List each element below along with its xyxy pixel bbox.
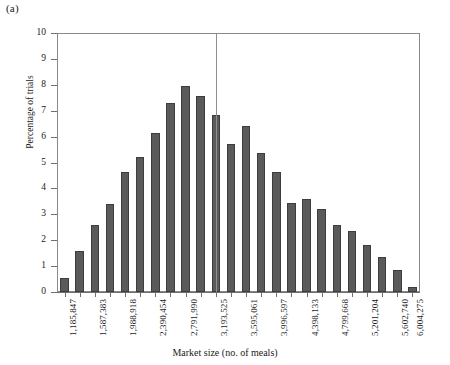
x-axis-tick bbox=[367, 292, 368, 297]
x-axis-tick bbox=[246, 292, 247, 297]
x-axis-tick bbox=[276, 292, 277, 297]
y-axis-tick-label: 8 bbox=[0, 80, 46, 90]
bar bbox=[121, 172, 129, 292]
x-axis-tick-label: 3,595,061 bbox=[250, 299, 259, 336]
x-axis-tick-label: 1,988,918 bbox=[129, 299, 138, 336]
x-axis-tick-label: 6,004,275 bbox=[416, 299, 425, 336]
x-axis-line bbox=[57, 292, 420, 293]
bar bbox=[60, 278, 68, 292]
y-axis-tick-label: 4 bbox=[0, 183, 46, 193]
x-axis-tick bbox=[231, 292, 232, 297]
bar bbox=[317, 209, 325, 292]
x-axis-tick bbox=[170, 292, 171, 297]
y-axis-tick-label: 1 bbox=[0, 261, 46, 271]
x-axis-tick bbox=[322, 292, 323, 297]
x-axis-tick-label: 2,390,454 bbox=[159, 299, 168, 336]
x-axis-title: Market size (no. of meals) bbox=[0, 347, 450, 358]
x-axis-tick bbox=[216, 292, 217, 297]
bar bbox=[75, 251, 83, 292]
bar bbox=[227, 144, 235, 292]
bar bbox=[272, 172, 280, 292]
x-axis-tick bbox=[125, 292, 126, 297]
bar bbox=[393, 270, 401, 292]
bar bbox=[348, 231, 356, 292]
y-axis-tick-label: 9 bbox=[0, 54, 46, 64]
bar bbox=[106, 204, 114, 292]
y-axis-tick-label: 6 bbox=[0, 132, 46, 142]
x-axis-tick bbox=[95, 292, 96, 297]
bar bbox=[302, 199, 310, 292]
x-axis-tick bbox=[337, 292, 338, 297]
bar bbox=[136, 157, 144, 292]
y-axis-tick-label: 2 bbox=[0, 235, 46, 245]
x-axis-tick bbox=[186, 292, 187, 297]
x-axis-tick bbox=[307, 292, 308, 297]
bar bbox=[333, 225, 341, 292]
x-axis-tick-label: 1,587,383 bbox=[99, 299, 108, 336]
bar bbox=[151, 133, 159, 292]
panel-label: (a) bbox=[6, 2, 19, 14]
x-axis-tick-label: 3,193,525 bbox=[220, 299, 229, 336]
x-axis-tick bbox=[261, 292, 262, 297]
x-axis-tick bbox=[397, 292, 398, 297]
x-axis-tick bbox=[352, 292, 353, 297]
bar bbox=[363, 245, 371, 292]
x-axis-tick-label: 1,185,847 bbox=[69, 299, 78, 336]
y-axis-tick-label: 7 bbox=[0, 106, 46, 116]
bar bbox=[242, 126, 250, 292]
y-axis-tick-label: 0 bbox=[0, 287, 46, 297]
x-axis-tick-label: 5,201,204 bbox=[371, 299, 380, 336]
x-axis-tick bbox=[201, 292, 202, 297]
y-axis-tick-label: 10 bbox=[0, 28, 46, 38]
x-axis-tick bbox=[155, 292, 156, 297]
x-axis-tick-label: 2,791,990 bbox=[190, 299, 199, 336]
x-axis-tick-label: 3,996,597 bbox=[280, 299, 289, 336]
x-axis-tick bbox=[80, 292, 81, 297]
y-axis-tick-label: 3 bbox=[0, 209, 46, 219]
bar-series bbox=[57, 33, 420, 292]
x-axis-tick bbox=[412, 292, 413, 297]
bar bbox=[166, 103, 174, 292]
x-axis-tick bbox=[382, 292, 383, 297]
bar bbox=[257, 153, 265, 292]
x-axis-tick-label: 4,799,668 bbox=[341, 299, 350, 336]
x-axis-tick bbox=[291, 292, 292, 297]
x-axis-tick-label: 5,602,740 bbox=[401, 299, 410, 336]
y-axis-tick-label: 5 bbox=[0, 158, 46, 168]
y-axis-title: Percentage of trials bbox=[25, 22, 35, 202]
x-axis-tick bbox=[110, 292, 111, 297]
figure-panel-a: (a) 012345678910 Percentage of trials 1,… bbox=[0, 0, 450, 365]
x-axis-tick bbox=[140, 292, 141, 297]
bar bbox=[378, 257, 386, 292]
bar bbox=[91, 225, 99, 292]
x-axis-tick-label: 4,398,133 bbox=[311, 299, 320, 336]
x-axis-tick bbox=[65, 292, 66, 297]
bar bbox=[196, 96, 204, 292]
bar bbox=[181, 86, 189, 292]
bar bbox=[287, 203, 295, 292]
reference-line bbox=[216, 33, 217, 292]
